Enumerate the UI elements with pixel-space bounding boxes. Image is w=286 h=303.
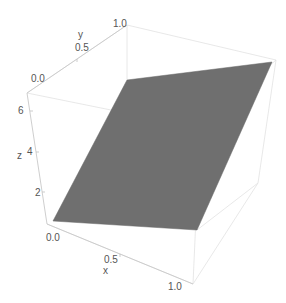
x-tick-label: 1.0 — [168, 281, 182, 292]
y-axis-label: y — [78, 29, 83, 40]
surface-plot-3d: 0.0 0.5 1.0 y 6 4 2 z 0.0 0.5 1.0 x — [0, 0, 286, 303]
z-tick-label: 2 — [35, 187, 41, 198]
z-tick-label: 4 — [27, 146, 33, 157]
y-tick-label: 0.0 — [31, 73, 45, 84]
surface-plane — [53, 62, 272, 230]
x-tick-label: 0.0 — [46, 232, 60, 243]
z-axis-label: z — [17, 150, 22, 161]
y-tick-label: 1.0 — [113, 18, 127, 29]
x-tick-label: 0.5 — [104, 254, 118, 265]
x-axis-label: x — [103, 265, 108, 276]
z-axis-line — [27, 93, 47, 224]
y-tick-label: 0.5 — [75, 42, 89, 53]
z-tick-label: 6 — [18, 105, 24, 116]
